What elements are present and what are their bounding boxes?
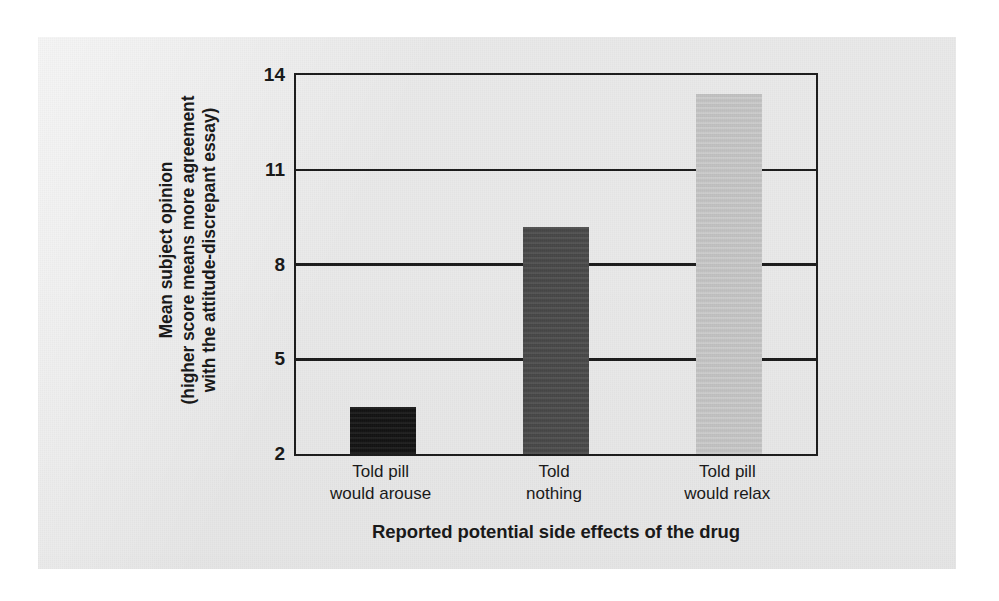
plot-area: 2581114 [294,73,818,456]
y-axis-title-line-2: (higher score means more agreement [178,96,199,405]
x-category-label-line: Told pill [330,461,431,483]
x-category-label-line: would arouse [330,483,431,505]
scanned-page-panel: Mean subject opinion (higher score means… [38,37,956,569]
bar-1 [523,227,589,454]
y-tick-label-8: 8 [274,254,285,276]
x-category-label-1: Toldnothing [526,461,582,506]
y-tick-label-5: 5 [274,348,285,370]
bar-0 [350,407,416,454]
bar-texture [350,407,416,454]
bar-texture [696,94,762,454]
x-axis-category-labels: Told pillwould arouseToldnothingTold pil… [294,461,818,513]
y-tick-label-14: 14 [264,64,285,86]
bar-texture [523,227,589,454]
bar-2 [696,94,762,454]
y-axis-title-line-1: Mean subject opinion [156,162,177,339]
x-axis-title: Reported potential side effects of the d… [294,521,818,543]
y-tick-label-2: 2 [274,443,285,465]
y-tick-label-11: 11 [265,159,285,181]
x-category-label-0: Told pillwould arouse [330,461,431,506]
x-category-label-line: nothing [526,483,582,505]
x-category-label-2: Told pillwould relax [684,461,770,506]
y-axis-title: Mean subject opinion (higher score means… [138,40,238,460]
y-axis-title-line-3: with the attitude-discrepant essay) [199,108,220,392]
bar-chart-figure: Mean subject opinion (higher score means… [38,37,956,569]
x-category-label-line: Told pill [684,461,770,483]
x-category-label-line: would relax [684,483,770,505]
x-category-label-line: Told [526,461,582,483]
